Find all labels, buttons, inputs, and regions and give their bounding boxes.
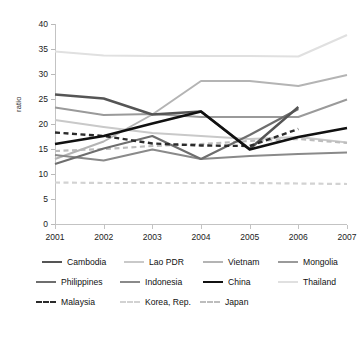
- x-tick-mark-2005: [250, 225, 251, 229]
- x-tick-mark-2002: [104, 225, 105, 229]
- legend-label-korea-rep: Korea, Rep.: [145, 297, 191, 307]
- x-tick-2001: 2001: [46, 232, 65, 242]
- series-lines: [0, 0, 360, 250]
- legend-swatch-japan: [200, 301, 220, 303]
- legend-label-japan: Japan: [225, 297, 248, 307]
- legend-label-china: China: [228, 277, 250, 287]
- legend-swatch-korea-rep: [120, 301, 140, 303]
- series-line-thailand: [55, 35, 347, 57]
- y-tick-mark-35: [51, 49, 55, 50]
- x-tick-mark-2004: [201, 225, 202, 229]
- legend-row-2: PhilippinesIndonesiaChinaThailand: [0, 272, 360, 292]
- legend-label-vietnam: Vietnam: [228, 257, 259, 267]
- legend-swatch-lao-pdr: [124, 261, 144, 264]
- legend-item-lao-pdr[interactable]: Lao PDR: [124, 257, 184, 267]
- series-line-mongolia: [55, 100, 347, 118]
- legend-item-cambodia[interactable]: Cambodia: [42, 257, 106, 267]
- y-tick-mark-5: [51, 199, 55, 200]
- x-tick-2005: 2005: [240, 232, 259, 242]
- legend-label-cambodia: Cambodia: [67, 257, 106, 267]
- y-tick-mark-15: [51, 149, 55, 150]
- x-tick-mark-2001: [55, 225, 56, 229]
- legend-label-philippines: Philippines: [61, 277, 103, 287]
- legend-label-thailand: Thailand: [303, 277, 336, 287]
- legend-item-malaysia[interactable]: Malaysia: [36, 297, 95, 307]
- legend-swatch-vietnam: [203, 261, 223, 264]
- x-tick-2007: 2007: [338, 232, 357, 242]
- legend-swatch-thailand: [278, 281, 298, 284]
- legend-swatch-indonesia: [120, 281, 140, 284]
- legend-label-lao-pdr: Lao PDR: [149, 257, 184, 267]
- y-tick-mark-40: [51, 24, 55, 25]
- x-tick-2002: 2002: [94, 232, 113, 242]
- legend-label-malaysia: Malaysia: [61, 297, 95, 307]
- legend-row-1: CambodiaLao PDRVietnamMongolia: [0, 252, 360, 272]
- legend-label-mongolia: Mongolia: [303, 257, 338, 267]
- legend-item-korea-rep[interactable]: Korea, Rep.: [120, 297, 191, 307]
- legend-swatch-cambodia: [42, 261, 62, 264]
- legend-item-japan[interactable]: Japan: [200, 297, 248, 307]
- legend-item-thailand[interactable]: Thailand: [278, 277, 336, 287]
- legend-item-vietnam[interactable]: Vietnam: [203, 257, 259, 267]
- y-tick-mark-20: [51, 124, 55, 125]
- y-tick-mark-25: [51, 99, 55, 100]
- chart-figure: ratio 0510152025303540 20012002200320042…: [0, 0, 360, 340]
- legend-item-china[interactable]: China: [203, 277, 250, 287]
- y-tick-mark-30: [51, 74, 55, 75]
- legend-swatch-malaysia: [36, 301, 56, 303]
- x-tick-2004: 2004: [192, 232, 211, 242]
- legend-item-indonesia[interactable]: Indonesia: [120, 277, 182, 287]
- legend-item-philippines[interactable]: Philippines: [36, 277, 103, 287]
- legend-swatch-philippines: [36, 281, 56, 284]
- x-tick-2003: 2003: [143, 232, 162, 242]
- legend-label-indonesia: Indonesia: [145, 277, 182, 287]
- y-tick-mark-10: [51, 174, 55, 175]
- chart-legend: CambodiaLao PDRVietnamMongoliaPhilippine…: [0, 252, 360, 318]
- x-tick-mark-2006: [298, 225, 299, 229]
- x-tick-mark-2007: [347, 225, 348, 229]
- x-tick-2006: 2006: [289, 232, 308, 242]
- legend-item-mongolia[interactable]: Mongolia: [278, 257, 338, 267]
- legend-swatch-china: [203, 281, 223, 284]
- x-tick-mark-2003: [152, 225, 153, 229]
- plot-area: ratio 0510152025303540 20012002200320042…: [0, 0, 360, 250]
- legend-row-3: MalaysiaKorea, Rep.Japan: [0, 292, 360, 312]
- series-line-korea-rep: [55, 183, 347, 185]
- legend-swatch-mongolia: [278, 261, 298, 264]
